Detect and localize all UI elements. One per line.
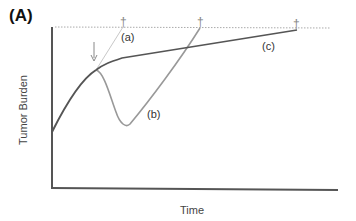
x-axis-label: Time [180,204,204,216]
death-marker-icon: † [120,16,127,28]
x-axis [51,188,338,190]
y-axis-label: Tumor Burden [17,65,29,155]
curve-c-label: (c) [262,40,275,52]
curve-a-label: (a) [121,31,134,43]
figure: (A) Tumor Burden Time (a) (b) (c) † † † [0,0,356,221]
curve-b-label: (b) [147,108,160,120]
death-marker-icon: † [197,16,204,28]
lethal-threshold-line [55,27,330,28]
curve-a [96,27,123,70]
panel-label: (A) [9,6,33,26]
chart-canvas [0,0,356,221]
death-marker-icon: † [293,18,300,30]
curve-common-rise [52,70,96,132]
